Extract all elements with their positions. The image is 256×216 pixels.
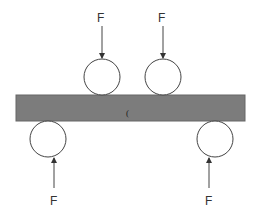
beam [16, 95, 245, 121]
force-label-top-left: F [97, 11, 104, 25]
roller-bottom-left [30, 121, 66, 157]
four-point-bending-diagram: ( F F F F [0, 0, 256, 216]
roller-top-left [84, 59, 120, 95]
roller-top-right [145, 59, 181, 95]
beam-center-mark: ( [126, 108, 129, 118]
load-top-right: F [145, 11, 181, 95]
support-bottom-left: F [30, 121, 66, 208]
force-label-top-right: F [158, 11, 165, 25]
force-label-bottom-left: F [50, 194, 57, 208]
force-label-bottom-right: F [205, 194, 212, 208]
load-top-left: F [84, 11, 120, 95]
roller-bottom-right [197, 121, 233, 157]
support-bottom-right: F [197, 121, 233, 208]
